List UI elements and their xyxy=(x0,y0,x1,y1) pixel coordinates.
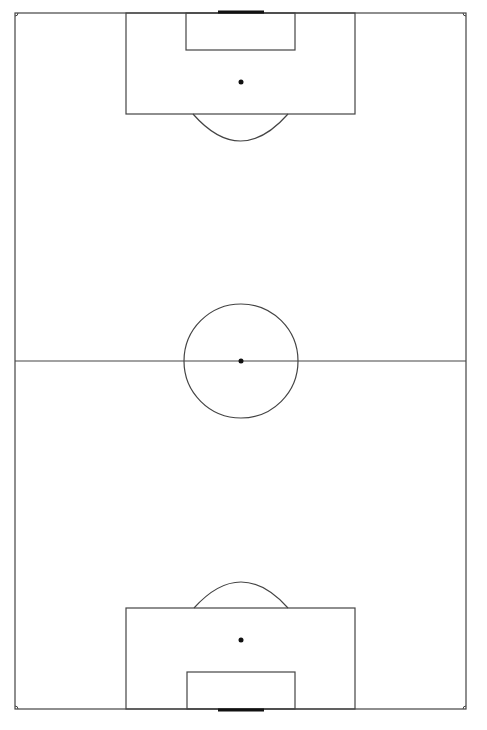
bottom-penalty-spot xyxy=(239,638,244,643)
bottom-goal-box xyxy=(187,672,295,709)
top-penalty-spot xyxy=(239,80,244,85)
soccer-pitch xyxy=(0,0,487,730)
center-spot xyxy=(239,359,244,364)
bottom-penalty-arc xyxy=(194,582,288,608)
top-penalty-box xyxy=(126,13,355,114)
bottom-penalty-box xyxy=(126,608,355,709)
top-goal-box xyxy=(186,13,295,50)
top-half xyxy=(126,12,355,141)
top-penalty-arc xyxy=(193,114,288,141)
bottom-half xyxy=(126,582,355,710)
